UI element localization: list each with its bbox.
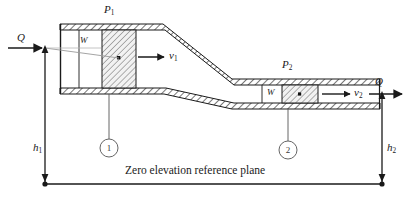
height-1-label: h1 <box>33 142 42 153</box>
flow-out-label: Q <box>375 76 383 87</box>
weight-1-label: W <box>80 36 88 45</box>
pipe-bottom-wall <box>60 88 380 109</box>
height-1-dimension <box>42 45 49 187</box>
flow-in-label: Q <box>17 32 25 43</box>
height-2-label: h2 <box>387 142 396 153</box>
fluid-flow-diagram: P1 P2 Q Q W W v1 v2 h1 h2 1 2 Zero eleva… <box>0 0 406 205</box>
fluid-element-1 <box>102 30 136 88</box>
pressure-2-label: P2 <box>282 59 292 70</box>
fluid-element-2 <box>282 85 318 103</box>
centroid-marker-2 <box>298 92 301 95</box>
velocity-1-label: v1 <box>169 50 178 61</box>
station-1-number: 1 <box>100 139 118 157</box>
datum-label: Zero elevation reference plane <box>125 165 265 177</box>
pressure-1-label: P1 <box>104 4 114 15</box>
weight-2-label: W <box>267 88 275 97</box>
station-2-number: 2 <box>279 141 297 159</box>
velocity-2-label: v2 <box>354 87 363 98</box>
